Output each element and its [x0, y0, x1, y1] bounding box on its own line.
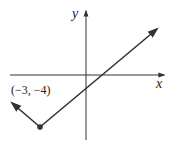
graph-right-arm — [40, 29, 157, 127]
x-axis-label: x — [155, 76, 163, 91]
y-axis-label: y — [70, 6, 79, 21]
vertex-point — [37, 124, 43, 130]
graph-left-arm — [12, 103, 40, 127]
vertex-label: (−3, −4) — [11, 83, 51, 97]
graph-canvas: y x (−3, −4) — [0, 0, 170, 142]
